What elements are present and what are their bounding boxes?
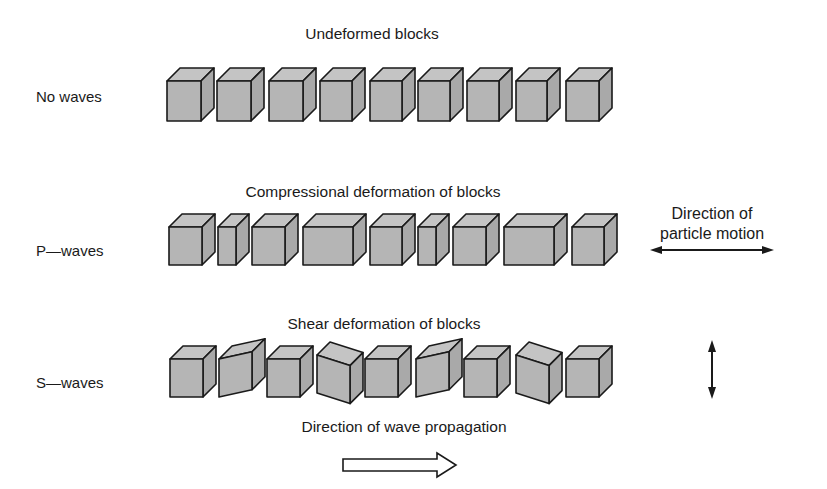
- block: [370, 68, 415, 121]
- horizontal-double-arrow-icon: [650, 246, 774, 254]
- hollow-right-arrow-icon: [343, 453, 456, 477]
- block: [317, 342, 363, 404]
- block: [467, 68, 512, 121]
- block: [217, 68, 264, 121]
- block-row-shear: [170, 339, 612, 404]
- block: [418, 68, 463, 121]
- block: [370, 214, 415, 265]
- block: [267, 346, 313, 397]
- block: [269, 68, 316, 121]
- block: [303, 214, 366, 265]
- block: [464, 346, 510, 397]
- block: [566, 68, 612, 121]
- block-row-compressional: [169, 214, 617, 265]
- block: [416, 339, 462, 397]
- block: [365, 346, 411, 397]
- vertical-double-arrow-icon: [708, 340, 716, 399]
- block-diagram: [0, 0, 827, 489]
- block: [566, 346, 612, 397]
- block: [453, 214, 499, 265]
- block: [504, 214, 567, 265]
- block: [170, 346, 216, 397]
- block: [516, 68, 560, 121]
- block-row-undeformed: [167, 68, 612, 121]
- block: [516, 342, 562, 404]
- block: [252, 214, 298, 265]
- block: [572, 214, 617, 265]
- block: [219, 339, 265, 397]
- block: [418, 214, 449, 265]
- block: [218, 214, 249, 265]
- block: [167, 68, 214, 121]
- block: [320, 68, 365, 121]
- block: [169, 214, 215, 265]
